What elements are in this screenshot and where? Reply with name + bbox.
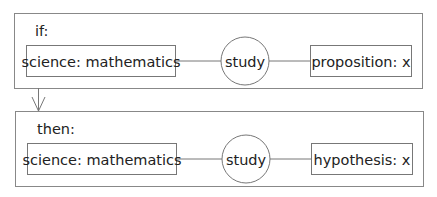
if-left-node-text: science: mathematics (21, 55, 180, 70)
then-label: then: (37, 122, 75, 137)
then-right-node-text: hypothesis: x (314, 153, 411, 168)
if-relation-text: study (225, 55, 265, 70)
then-left-node-text: science: mathematics (22, 153, 181, 168)
then-relation-text: study (226, 153, 266, 168)
if-right-node-text: proposition: x (311, 55, 410, 70)
if-block-frame (15, 14, 423, 89)
if-label: if: (35, 24, 49, 39)
then-block-frame (16, 112, 424, 187)
